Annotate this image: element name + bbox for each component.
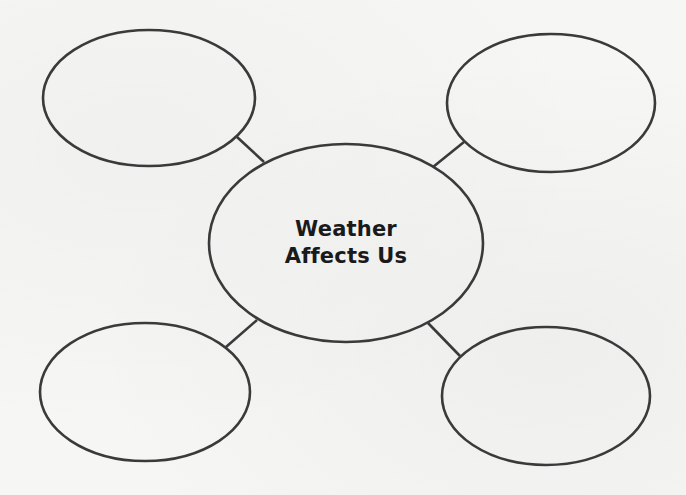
outer-node-bottom-left[interactable] — [50, 333, 240, 451]
outer-node-top-left[interactable] — [53, 40, 245, 156]
central-node-line1: Weather — [295, 216, 397, 243]
central-node-line2: Affects Us — [285, 243, 408, 270]
outer-node-top-right[interactable] — [457, 44, 645, 162]
outer-node-bottom-right[interactable] — [452, 337, 640, 455]
central-node-title: Weather Affects Us — [209, 144, 483, 342]
worksheet-page: Weather Affects Us — [0, 0, 686, 495]
